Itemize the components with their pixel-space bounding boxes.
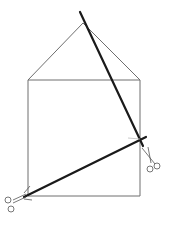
cut-line-1 — [80, 12, 143, 146]
square-body — [28, 80, 140, 196]
roof-triangle — [28, 23, 140, 80]
diagram-canvas — [0, 0, 171, 228]
cut-line-2 — [24, 137, 146, 197]
